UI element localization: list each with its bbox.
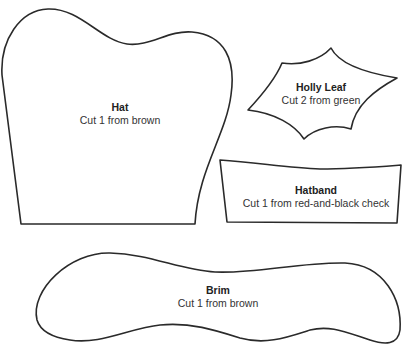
hatband-name: Hatband	[243, 184, 389, 197]
holly-leaf-name: Holly Leaf	[282, 81, 361, 94]
holly-leaf-instruction: Cut 2 from green	[282, 94, 361, 107]
brim-instruction: Cut 1 from brown	[178, 297, 259, 310]
hatband-label: Hatband Cut 1 from red-and-black check	[243, 184, 389, 210]
brim-label: Brim Cut 1 from brown	[178, 284, 259, 310]
hat-name: Hat	[80, 101, 161, 114]
holly-leaf-label: Holly Leaf Cut 2 from green	[282, 81, 361, 107]
hat-label: Hat Cut 1 from brown	[80, 101, 161, 127]
brim-name: Brim	[178, 284, 259, 297]
hatband-instruction: Cut 1 from red-and-black check	[243, 197, 389, 210]
hat-instruction: Cut 1 from brown	[80, 114, 161, 127]
